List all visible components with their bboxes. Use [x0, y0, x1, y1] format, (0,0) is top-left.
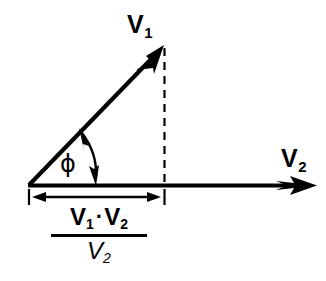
vector-v2-label-subscript: 2 — [298, 158, 306, 175]
vector-projection-figure: V1 V2 ϕ V1·V2 V2 — [0, 0, 326, 281]
projection-formula: V1·V2 V2 — [44, 204, 154, 267]
vector-v1-label-base: V — [127, 10, 144, 38]
numerator-right-base: V — [104, 203, 120, 230]
vector-v1-label: V1 — [127, 12, 153, 40]
vector-v1-label-subscript: 1 — [144, 24, 152, 41]
dimension-arrowhead-right — [147, 192, 161, 202]
dot-operator-icon: · — [96, 204, 103, 229]
denominator-base: V — [87, 237, 103, 264]
vector-v1-shaft — [29, 54, 156, 185]
vector-v2-label-base: V — [281, 144, 298, 172]
formula-denominator: V2 — [44, 238, 154, 267]
numerator-right-subscript: 2 — [120, 216, 128, 232]
denominator-subscript: 2 — [103, 250, 111, 266]
formula-numerator: V1·V2 — [44, 204, 154, 232]
dimension-arrowhead-left — [32, 192, 46, 202]
vector-v2-label: V2 — [281, 146, 307, 174]
angle-phi-label: ϕ — [60, 152, 76, 176]
phi-arc-arrowhead-lower — [89, 165, 99, 186]
numerator-left-subscript: 1 — [86, 216, 94, 232]
numerator-left-base: V — [70, 203, 86, 230]
